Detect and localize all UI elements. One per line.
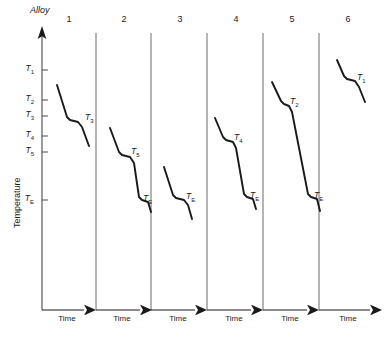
ytick-label-t4: T4 [16,129,34,141]
panel-number-3: 3 [169,14,191,24]
time-label-panel-2: Time [105,314,139,323]
ytick-label-t3: T3 [16,109,34,121]
time-label-panel-1: Time [50,314,84,323]
y-axis-ticks [42,70,48,200]
time-label-panel-4: Time [217,314,251,323]
ytick-label-te: TE [16,193,34,205]
figure-canvas [0,0,384,339]
time-label-panel-3: Time [161,314,195,323]
ytick-label-t1: T1 [16,63,34,75]
panel-number-2: 2 [113,14,135,24]
cooling-curves-figure: Alloy Temperature T1 T2 T3 T4 T5 TE 1 2 … [0,0,384,339]
arrest-label-alloy-4-t4: T4 [234,132,243,144]
y-axis [38,26,47,310]
arrest-label-alloy-5-t2: T2 [290,96,299,108]
arrest-label-alloy-4-te: TE [250,190,259,202]
arrest-label-alloy-6-t1: T1 [357,72,366,84]
panel-dividers [96,33,319,310]
panel-number-5: 5 [281,14,303,24]
arrest-label-alloy-2-t5: T5 [131,146,140,158]
ytick-label-t2: T2 [16,93,34,105]
panel-number-1: 1 [58,14,80,24]
arrest-label-alloy-1-t3: T3 [85,112,94,124]
time-label-panel-6: Time [331,314,365,323]
ytick-label-t5: T5 [16,145,34,157]
time-label-panel-5: Time [273,314,307,323]
alloy-header-label: Alloy [30,5,50,15]
arrest-label-alloy-5-te: TE [314,190,323,202]
panel-number-6: 6 [337,14,359,24]
arrest-label-alloy-3-te: TE [186,191,195,203]
panel-number-4: 4 [225,14,247,24]
arrest-label-alloy-2-te: TE [143,193,152,205]
